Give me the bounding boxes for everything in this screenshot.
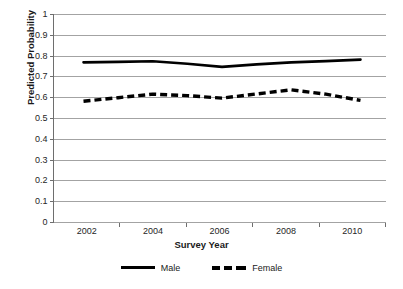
y-tick-label: 0.4: [14, 134, 48, 144]
legend-item-female[interactable]: Female: [212, 262, 282, 273]
y-tick-label: 0.8: [14, 51, 48, 61]
legend-swatch-solid-line-icon: [121, 266, 155, 269]
x-axis-title: Survey Year: [0, 239, 403, 250]
y-tick-label: 0.6: [14, 92, 48, 102]
legend-label: Male: [161, 263, 181, 273]
chart-legend: MaleFemale: [0, 262, 403, 273]
series-line-female: [84, 90, 361, 101]
series-line-male: [84, 60, 361, 67]
y-tick-label: 0.3: [14, 155, 48, 165]
x-tick-label: 2004: [123, 226, 183, 236]
x-tick-label: 2010: [322, 226, 382, 236]
y-tick-label: 0.2: [14, 175, 48, 185]
legend-label: Female: [252, 263, 282, 273]
y-tick-label: 0.5: [14, 113, 48, 123]
x-tick-label: 2006: [190, 226, 250, 236]
predicted-probability-line-chart: Predicted Probability 00.10.20.30.40.50.…: [0, 0, 403, 289]
y-tick-label: 0.7: [14, 71, 48, 81]
y-tick-label: 0.1: [14, 196, 48, 206]
y-tick-label: 0.9: [14, 30, 48, 40]
y-tick-label: 1: [14, 9, 48, 19]
legend-swatch-dashed-line-icon: [212, 266, 246, 270]
x-tick-label: 2002: [57, 226, 117, 236]
legend-item-male[interactable]: Male: [121, 262, 181, 273]
x-tick-label: 2008: [256, 226, 316, 236]
y-tick-label: 0: [14, 217, 48, 227]
